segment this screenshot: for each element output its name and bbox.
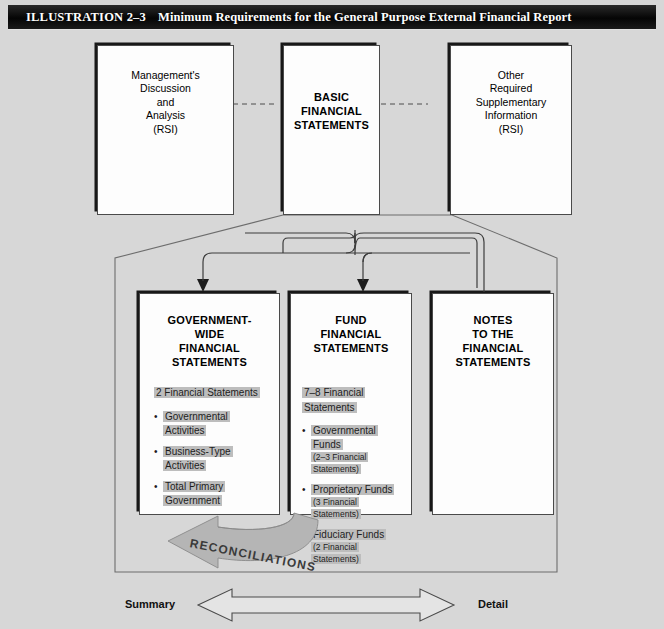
box-basic-financial-statements[interactable]: BASIC FINANCIAL STATEMENTS	[283, 45, 380, 215]
box-notes-to-the-financial-statements[interactable]: NOTES TO THE FINANCIAL STATEMENTS	[432, 293, 554, 515]
list-item: Proprietary Funds (3 Financial Statement…	[302, 483, 401, 521]
brace-left-arm	[203, 245, 355, 270]
box-other-required-supplementary-information-label: Other Required Supplementary Information…	[451, 69, 571, 136]
illustration-canvas: ILLUSTRATION 2–3 Minimum Requirements fo…	[0, 0, 664, 629]
fund-details: 7–8 Financial Statements Governmental Fu…	[302, 386, 401, 573]
scale-label-detail: Detail	[478, 598, 508, 610]
brace-to-notes	[355, 233, 484, 292]
brace-upper-left	[245, 233, 355, 243]
arrowhead-to-government-wide	[197, 279, 209, 292]
scale-label-summary: Summary	[125, 598, 175, 610]
box-government-wide-financial-statements[interactable]: GOVERNMENT- WIDE FINANCIAL STATEMENTS 2 …	[139, 293, 280, 515]
list-item: Business-Type Activities	[154, 445, 269, 473]
arrowhead-to-fund	[357, 279, 369, 292]
box-fund-financial-statements[interactable]: FUND FINANCIAL STATEMENTS 7–8 Financial …	[290, 293, 412, 515]
box-basic-financial-statements-label: BASIC FINANCIAL STATEMENTS	[284, 90, 379, 132]
box-government-wide-heading: GOVERNMENT- WIDE FINANCIAL STATEMENTS	[140, 313, 279, 369]
box-mdna-label: Management's Discussion and Analysis (RS…	[98, 69, 233, 136]
list-item: Governmental Activities	[154, 410, 269, 438]
brace-right-arm	[363, 253, 470, 262]
fund-statement-count: 7–8 Financial Statements	[302, 386, 401, 415]
box-notes-heading: NOTES TO THE FINANCIAL STATEMENTS	[433, 313, 553, 369]
illustration-number: ILLUSTRATION 2–3	[26, 10, 146, 25]
government-wide-statement-count: 2 Financial Statements	[154, 386, 269, 401]
list-item: Governmental Funds (2–3 Financial Statem…	[302, 424, 401, 476]
box-mdna[interactable]: Management's Discussion and Analysis (RS…	[97, 45, 234, 215]
distribution-brace	[283, 233, 477, 288]
illustration-title-group: ILLUSTRATION 2–3 Minimum Requirements fo…	[26, 5, 571, 29]
illustration-title-bar: ILLUSTRATION 2–3 Minimum Requirements fo…	[8, 5, 656, 29]
brace-right-arm-inner	[346, 253, 372, 270]
summary-detail-arrow	[198, 589, 454, 621]
box-other-required-supplementary-information[interactable]: Other Required Supplementary Information…	[450, 45, 572, 215]
page-title: Minimum Requirements for the General Pur…	[158, 10, 571, 25]
box-fund-heading: FUND FINANCIAL STATEMENTS	[291, 313, 411, 355]
reconciliations-label: RECONCILIATIONS	[189, 536, 318, 574]
government-wide-details: 2 Financial Statements Governmental Acti…	[154, 386, 269, 516]
list-item: Total Primary Government	[154, 480, 269, 508]
